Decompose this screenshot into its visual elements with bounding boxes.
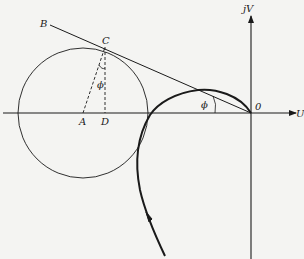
angle-arc-c [99, 65, 105, 69]
label-origin: 0 [255, 101, 262, 112]
locus-curve [137, 90, 251, 256]
label-d: D [100, 116, 109, 127]
label-phi-circle: ϕ [97, 79, 104, 90]
tangent-line-bo [50, 25, 251, 113]
label-jv-axis: jV [241, 3, 255, 14]
locus-direction-arrow-icon [146, 212, 152, 222]
label-b: B [39, 18, 47, 29]
label-c: C [102, 35, 110, 46]
angle-arc-phi-locus [213, 96, 216, 113]
diagram-canvas: B C A D ϕ ϕ 0 U jV [0, 0, 304, 259]
label-a: A [78, 116, 86, 127]
label-phi-locus: ϕ [201, 99, 208, 110]
label-u-axis: U [296, 108, 304, 119]
